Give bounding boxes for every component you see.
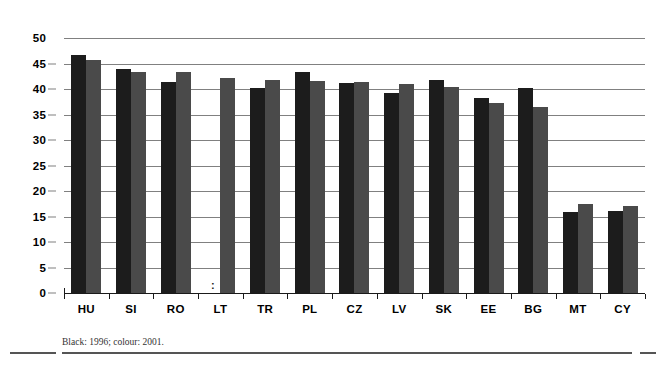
bar-lt-2001 xyxy=(220,78,235,293)
x-tick-mark-6 xyxy=(332,294,333,299)
missing-value-marker-lt-1996: : xyxy=(205,280,220,291)
bar-si-2001 xyxy=(131,72,146,293)
bar-sk-2001 xyxy=(444,87,459,293)
bar-ro-1996 xyxy=(161,82,176,293)
y-axis: 05101520253035404550 xyxy=(0,38,64,293)
y-tick-label-45: 45 xyxy=(33,58,46,70)
bar-group-tr xyxy=(243,38,288,293)
x-tick-label-ee: EE xyxy=(481,303,497,315)
bar-group-lt: : xyxy=(198,38,243,293)
x-tick-label-cy: CY xyxy=(614,303,631,315)
x-tick-label-tr: TR xyxy=(257,303,273,315)
x-tick-label-mt: MT xyxy=(569,303,586,315)
bar-group-sk xyxy=(422,38,467,293)
x-tick-mark-8 xyxy=(422,294,423,299)
bar-lv-2001 xyxy=(399,84,414,293)
bar-tr-1996 xyxy=(250,88,265,293)
x-tick-label-lv: LV xyxy=(392,303,406,315)
bar-group-si xyxy=(109,38,154,293)
footer-rule-main xyxy=(62,352,632,354)
y-tick-label-5: 5 xyxy=(39,262,46,274)
x-tick-label-sk: SK xyxy=(436,303,453,315)
x-tick-mark-10 xyxy=(511,294,512,299)
bar-hu-2001 xyxy=(86,60,101,293)
y-axis-spine xyxy=(64,288,65,294)
bar-lv-1996 xyxy=(384,93,399,293)
bar-group-cz xyxy=(332,38,377,293)
bar-si-1996 xyxy=(116,69,131,293)
x-tick-mark-1 xyxy=(109,294,110,299)
bar-cy-1996 xyxy=(608,211,623,293)
y-tick-label-25: 25 xyxy=(33,160,46,172)
x-tick-mark-11 xyxy=(556,294,557,299)
x-tick-mark-4 xyxy=(243,294,244,299)
x-tick-label-cz: CZ xyxy=(347,303,363,315)
footer-rule-right xyxy=(640,352,656,354)
bar-group-bg xyxy=(511,38,556,293)
x-axis-line xyxy=(64,293,645,294)
y-tick-label-15: 15 xyxy=(33,211,46,223)
y-tick-mark-10 xyxy=(48,242,56,243)
y-tick-mark-20 xyxy=(48,191,56,192)
bar-ro-2001 xyxy=(176,72,191,293)
x-tick-mark-0 xyxy=(64,294,65,299)
bar-tr-2001 xyxy=(265,80,280,293)
y-tick-label-50: 50 xyxy=(33,32,46,44)
y-tick-label-0: 0 xyxy=(39,287,46,299)
bar-group-hu xyxy=(64,38,109,293)
bar-cz-2001 xyxy=(354,82,369,293)
x-tick-mark-9 xyxy=(466,294,467,299)
bar-groups: : xyxy=(64,38,645,293)
bar-cz-1996 xyxy=(339,83,354,293)
x-tick-label-hu: HU xyxy=(78,303,95,315)
x-tick-label-lt: LT xyxy=(214,303,228,315)
bar-pl-1996 xyxy=(295,72,310,293)
chart-figure: 05101520253035404550 : HUSIROLTTRPLCZLVS… xyxy=(0,0,660,365)
x-tick-label-ro: RO xyxy=(167,303,185,315)
x-axis: HUSIROLTTRPLCZLVSKEEBGMTCY xyxy=(64,293,645,327)
y-tick-label-40: 40 xyxy=(33,83,46,95)
x-tick-label-si: SI xyxy=(125,303,136,315)
x-tick-mark-2 xyxy=(153,294,154,299)
y-tick-mark-45 xyxy=(48,63,56,64)
y-tick-mark-35 xyxy=(48,114,56,115)
y-tick-label-35: 35 xyxy=(33,109,46,121)
bar-group-lv xyxy=(377,38,422,293)
bar-ee-2001 xyxy=(489,103,504,293)
y-tick-mark-15 xyxy=(48,216,56,217)
bar-bg-2001 xyxy=(533,107,548,293)
x-tick-mark-12 xyxy=(600,294,601,299)
y-tick-mark-5 xyxy=(48,267,56,268)
bar-mt-1996 xyxy=(563,212,578,293)
x-tick-mark-5 xyxy=(287,294,288,299)
footer-rule-left xyxy=(10,352,56,354)
bar-group-pl xyxy=(287,38,332,293)
bar-hu-1996 xyxy=(71,55,86,293)
bar-cy-2001 xyxy=(623,206,638,293)
bar-group-ee xyxy=(466,38,511,293)
x-tick-mark-end xyxy=(645,294,646,299)
y-tick-mark-25 xyxy=(48,165,56,166)
y-tick-mark-30 xyxy=(48,140,56,141)
x-tick-mark-3 xyxy=(198,294,199,299)
y-tick-label-30: 30 xyxy=(33,134,46,146)
bar-ee-1996 xyxy=(474,98,489,293)
x-tick-mark-7 xyxy=(377,294,378,299)
y-tick-label-20: 20 xyxy=(33,185,46,197)
bar-sk-1996 xyxy=(429,80,444,293)
y-tick-mark-0 xyxy=(48,293,56,294)
chart-footnote: Black: 1996; colour: 2001. xyxy=(62,337,164,347)
bar-group-cy xyxy=(600,38,645,293)
bar-group-ro xyxy=(153,38,198,293)
y-tick-mark-40 xyxy=(48,89,56,90)
bar-bg-1996 xyxy=(518,88,533,293)
bar-pl-2001 xyxy=(310,81,325,293)
y-tick-label-10: 10 xyxy=(33,236,46,248)
bar-mt-2001 xyxy=(578,204,593,293)
x-tick-label-bg: BG xyxy=(524,303,542,315)
x-tick-label-pl: PL xyxy=(302,303,317,315)
bar-group-mt xyxy=(556,38,601,293)
